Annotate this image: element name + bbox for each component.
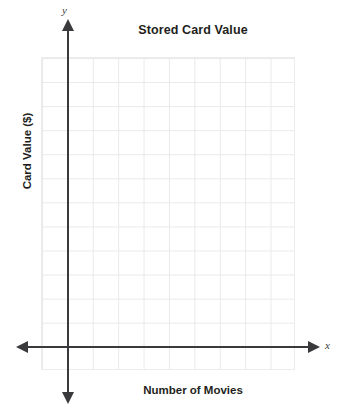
x-axis-arrow-left-icon <box>16 341 28 353</box>
x-axis-letter-label: x <box>325 339 330 351</box>
chart-title: Stored Card Value <box>68 23 318 37</box>
chart-canvas: y x Stored Card Value Card Value ($) Num… <box>0 0 349 418</box>
x-axis-arrow-right-icon <box>308 341 320 353</box>
x-axis-line <box>26 346 311 348</box>
y-axis-letter-label: y <box>62 4 67 16</box>
y-axis-title: Card Value ($) <box>21 96 33 206</box>
y-axis-line <box>67 30 69 394</box>
plot-grid-area <box>41 57 295 370</box>
x-axis-title: Number of Movies <box>68 384 318 396</box>
